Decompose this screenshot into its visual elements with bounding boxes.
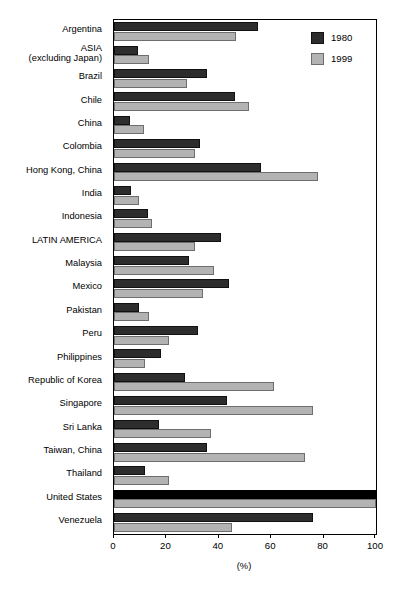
category-label: Sri Lanka bbox=[0, 422, 102, 432]
x-axis-unit-label: (%) bbox=[113, 561, 375, 571]
category-label: ASIA (excluding Japan) bbox=[0, 43, 102, 64]
bar-1999-15 bbox=[114, 382, 274, 391]
category-label: Chile bbox=[0, 95, 102, 105]
legend-label: 1980 bbox=[331, 32, 352, 43]
bar-1980-13 bbox=[114, 326, 198, 335]
x-tick-label: 60 bbox=[250, 540, 290, 551]
bar-1980-11 bbox=[114, 279, 229, 288]
x-tick-mark bbox=[270, 534, 271, 538]
bar-1980-20 bbox=[114, 490, 376, 499]
category-label: Peru bbox=[0, 328, 102, 338]
category-label: Argentina bbox=[0, 24, 102, 34]
category-label: China bbox=[0, 118, 102, 128]
x-tick-label: 0 bbox=[93, 540, 133, 551]
bar-1999-4 bbox=[114, 125, 144, 134]
bar-1999-11 bbox=[114, 289, 203, 298]
chart-figure: ArgentinaASIA (excluding Japan)BrazilChi… bbox=[0, 0, 398, 591]
plot-area bbox=[113, 19, 377, 535]
bar-1980-19 bbox=[114, 466, 145, 475]
x-axis: 020406080100 bbox=[113, 534, 375, 564]
bar-1999-12 bbox=[114, 312, 149, 321]
bars-container bbox=[114, 20, 376, 534]
bar-1980-16 bbox=[114, 396, 227, 405]
bar-1980-10 bbox=[114, 256, 189, 265]
category-label: Malaysia bbox=[0, 258, 102, 268]
bar-1999-8 bbox=[114, 219, 152, 228]
bar-1999-3 bbox=[114, 102, 249, 111]
x-tick-mark bbox=[323, 534, 324, 538]
bar-1980-6 bbox=[114, 163, 261, 172]
bar-1980-17 bbox=[114, 420, 159, 429]
x-tick-label: 40 bbox=[198, 540, 238, 551]
bar-1999-21 bbox=[114, 523, 232, 532]
category-label: Singapore bbox=[0, 398, 102, 408]
bar-1980-15 bbox=[114, 373, 185, 382]
bar-1999-10 bbox=[114, 266, 214, 275]
bar-1980-21 bbox=[114, 513, 313, 522]
bar-1980-4 bbox=[114, 116, 130, 125]
category-axis-labels: ArgentinaASIA (excluding Japan)BrazilChi… bbox=[0, 19, 108, 533]
x-tick-label: 100 bbox=[355, 540, 395, 551]
category-label: India bbox=[0, 188, 102, 198]
bar-1999-16 bbox=[114, 406, 313, 415]
bar-1999-2 bbox=[114, 79, 187, 88]
x-tick-mark bbox=[165, 534, 166, 538]
bar-1999-6 bbox=[114, 172, 318, 181]
bar-1980-8 bbox=[114, 209, 148, 218]
bar-1980-0 bbox=[114, 22, 258, 31]
x-tick-label: 80 bbox=[303, 540, 343, 551]
category-label: United States bbox=[0, 492, 102, 502]
bar-1980-7 bbox=[114, 186, 131, 195]
bar-1999-20 bbox=[114, 499, 376, 508]
bar-1999-1 bbox=[114, 55, 149, 64]
category-label: Colombia bbox=[0, 141, 102, 151]
x-tick-mark bbox=[113, 534, 114, 538]
category-label: Mexico bbox=[0, 281, 102, 291]
bar-1999-14 bbox=[114, 359, 145, 368]
dark-swatch bbox=[311, 32, 324, 44]
bar-1980-18 bbox=[114, 443, 207, 452]
bar-1999-17 bbox=[114, 429, 211, 438]
category-label: Thailand bbox=[0, 468, 102, 478]
bar-1980-14 bbox=[114, 349, 161, 358]
legend-entry-1980: 1980 bbox=[311, 30, 381, 45]
legend-label: 1999 bbox=[331, 53, 352, 64]
category-label: Venezuela bbox=[0, 515, 102, 525]
category-label: Hong Kong, China bbox=[0, 165, 102, 175]
legend-entry-1999: 1999 bbox=[311, 51, 381, 66]
category-label: Republic of Korea bbox=[0, 375, 102, 385]
bar-1999-0 bbox=[114, 32, 236, 41]
bar-1999-5 bbox=[114, 149, 195, 158]
light-swatch bbox=[311, 53, 324, 65]
bar-1980-5 bbox=[114, 139, 200, 148]
chart-legend: 19801999 bbox=[311, 30, 381, 72]
category-label: Indonesia bbox=[0, 211, 102, 221]
bar-1999-9 bbox=[114, 242, 195, 251]
category-label: Brazil bbox=[0, 71, 102, 81]
bar-1980-12 bbox=[114, 303, 139, 312]
x-tick-mark bbox=[374, 534, 375, 538]
bar-1980-3 bbox=[114, 92, 235, 101]
bar-1999-13 bbox=[114, 336, 169, 345]
category-label: Philippines bbox=[0, 352, 102, 362]
bar-1980-1 bbox=[114, 46, 138, 55]
category-label: Pakistan bbox=[0, 305, 102, 315]
category-label: Taiwan, China bbox=[0, 445, 102, 455]
bar-1980-9 bbox=[114, 233, 221, 242]
category-label: LATIN AMERICA bbox=[0, 235, 102, 245]
bar-1999-18 bbox=[114, 453, 305, 462]
bar-1980-2 bbox=[114, 69, 207, 78]
x-tick-label: 20 bbox=[145, 540, 185, 551]
bar-1999-7 bbox=[114, 196, 139, 205]
x-tick-mark bbox=[218, 534, 219, 538]
bar-1999-19 bbox=[114, 476, 169, 485]
